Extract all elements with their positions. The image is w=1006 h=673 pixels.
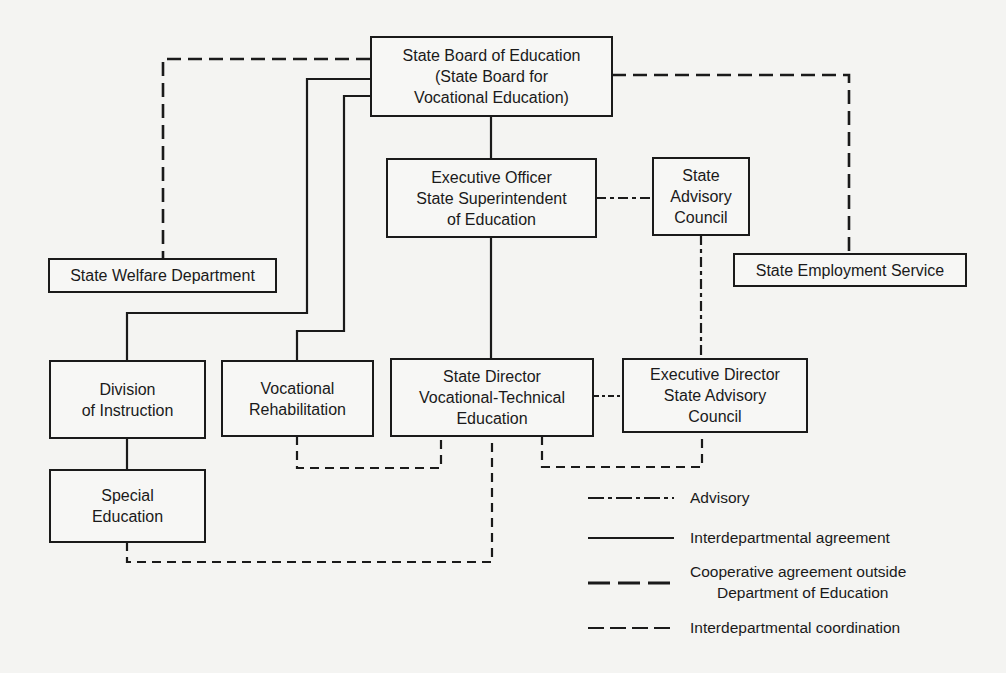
node-text: Executive Director bbox=[650, 364, 780, 385]
edge-vocrehab-statedirector bbox=[297, 436, 441, 468]
node-text: Council bbox=[688, 406, 741, 427]
legend-advisory-label: Advisory bbox=[690, 488, 749, 508]
node-state-welfare: State Welfare Department bbox=[48, 258, 277, 293]
node-text: State Advisory bbox=[664, 385, 766, 406]
node-state-advisory-council: State Advisory Council bbox=[652, 157, 750, 236]
legend-coordination-label: Interdepartmental coordination bbox=[690, 618, 900, 638]
node-text: Special bbox=[101, 485, 153, 506]
node-text: of Education bbox=[447, 209, 536, 230]
node-text: (State Board for bbox=[435, 66, 548, 87]
node-executive-director-sac: Executive Director State Advisory Counci… bbox=[622, 358, 808, 433]
node-text: State bbox=[682, 165, 719, 186]
node-state-board: State Board of Education (State Board fo… bbox=[370, 36, 613, 117]
node-text: Division bbox=[99, 379, 155, 400]
node-vocational-rehabilitation: Vocational Rehabilitation bbox=[221, 360, 374, 437]
legend-cooperative-label-1: Cooperative agreement outside bbox=[690, 562, 906, 582]
node-text: State Welfare Department bbox=[70, 265, 255, 286]
node-text: State Director bbox=[443, 366, 541, 387]
node-text: Executive Officer bbox=[431, 167, 552, 188]
node-text: Council bbox=[674, 207, 727, 228]
node-text: State Employment Service bbox=[756, 260, 945, 281]
node-text: Vocational Education) bbox=[414, 87, 569, 108]
node-text: Education bbox=[92, 506, 163, 527]
node-text: Vocational bbox=[261, 378, 335, 399]
node-executive-officer: Executive Officer State Superintendent o… bbox=[386, 158, 597, 238]
edge-statedirector-execdirector-coord bbox=[542, 432, 702, 467]
node-division-instruction: Division of Instruction bbox=[49, 360, 206, 439]
node-text: Advisory bbox=[670, 186, 731, 207]
node-text: State Board of Education bbox=[403, 45, 581, 66]
node-text: Vocational-Technical bbox=[419, 387, 565, 408]
node-text: of Instruction bbox=[82, 400, 174, 421]
legend-cooperative-label-2: Department of Education bbox=[717, 583, 888, 603]
edge-board-welfare bbox=[163, 59, 370, 258]
legend-agreement-label: Interdepartmental agreement bbox=[690, 528, 890, 548]
node-state-employment: State Employment Service bbox=[733, 253, 967, 287]
node-special-education: Special Education bbox=[49, 469, 206, 543]
node-text: State Superintendent bbox=[416, 188, 566, 209]
node-text: Rehabilitation bbox=[249, 399, 346, 420]
node-text: Education bbox=[456, 408, 527, 429]
node-state-director: State Director Vocational-Technical Educ… bbox=[390, 358, 594, 437]
